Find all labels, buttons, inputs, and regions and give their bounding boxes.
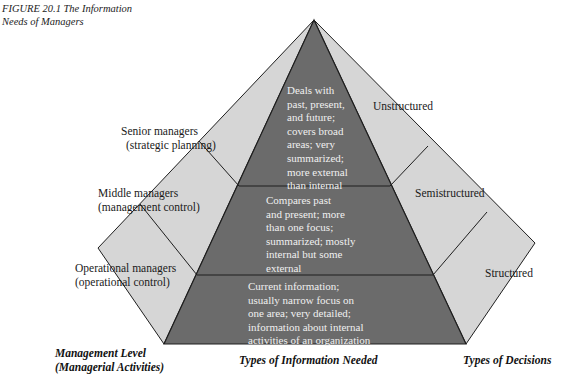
management-level-senior-title: Senior managers: [121, 124, 216, 138]
info-line: information about internal: [248, 321, 370, 335]
info-line: than internal: [287, 179, 348, 193]
axis-label-information-types: Types of Information Needed: [239, 353, 378, 367]
information-needed-senior: Deals with past, present, and future; co…: [287, 84, 348, 193]
decision-type-structured: Structured: [485, 266, 533, 280]
info-line: usually narrow focus on: [248, 294, 370, 308]
management-level-operational-title: Operational managers: [75, 261, 176, 275]
management-level-middle: Middle managers (management control): [98, 186, 200, 214]
management-level-middle-title: Middle managers: [98, 186, 200, 200]
info-line: Deals with: [287, 84, 348, 98]
axis-label-management-level-line-2: (Managerial Activities): [55, 360, 164, 374]
info-line: one area; very detailed;: [248, 307, 370, 321]
decision-type-unstructured: Unstructured: [373, 99, 433, 113]
management-level-senior-activity: (strategic planning): [121, 138, 216, 152]
info-line: activities of an organization: [248, 334, 370, 348]
info-line: summarized;: [287, 152, 348, 166]
information-needed-operational: Current information; usually narrow focu…: [248, 280, 370, 348]
info-line: and future;: [287, 111, 348, 125]
management-level-operational-activity: (operational control): [75, 275, 176, 289]
management-level-senior: Senior managers (strategic planning): [121, 124, 216, 152]
management-level-middle-activity: (management control): [98, 200, 200, 214]
info-line: and present; more: [266, 208, 356, 222]
info-line: areas; very: [287, 138, 348, 152]
info-line: more external: [287, 166, 348, 180]
axis-label-management-level: Management Level (Managerial Activities): [55, 346, 164, 374]
axis-label-decision-types: Types of Decisions: [463, 353, 551, 367]
info-line: internal but some: [266, 248, 356, 262]
info-line: covers broad: [287, 125, 348, 139]
management-level-operational: Operational managers (operational contro…: [75, 261, 176, 289]
information-needed-middle: Compares past and present; more than one…: [266, 194, 356, 276]
info-line: past, present,: [287, 98, 348, 112]
info-line: summarized; mostly: [266, 235, 356, 249]
axis-label-management-level-line-1: Management Level: [55, 346, 164, 360]
info-line: external: [266, 262, 356, 276]
decision-type-semistructured: Semistructured: [415, 186, 485, 200]
info-line: than one focus;: [266, 221, 356, 235]
info-line: Compares past: [266, 194, 356, 208]
info-line: Current information;: [248, 280, 370, 294]
